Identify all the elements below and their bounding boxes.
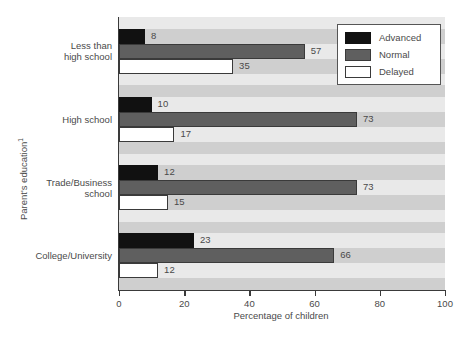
bar-group: 127315 — [119, 154, 445, 222]
y-axis-title-footnote: 1 — [17, 138, 24, 142]
bar-row: 73 — [119, 180, 445, 195]
category-label-line: high school — [0, 51, 112, 62]
bar-row: 12 — [119, 165, 445, 180]
bar-advanced[interactable] — [119, 29, 145, 44]
x-axis-tick — [315, 290, 316, 296]
bar-normal[interactable] — [119, 248, 334, 263]
category-label: Trade/Businessschool — [0, 177, 112, 199]
bar-row: 12 — [119, 263, 445, 278]
bar-value-label: 12 — [164, 264, 175, 275]
bar-row: 17 — [119, 127, 445, 142]
category-label: High school — [0, 114, 112, 125]
bar-value-label: 23 — [200, 234, 211, 245]
bar-value-label: 17 — [180, 128, 191, 139]
legend-label: Delayed — [379, 66, 414, 77]
legend-item[interactable]: Advanced — [345, 30, 434, 45]
x-axis-tick-label: 40 — [244, 298, 255, 309]
bar-value-label: 73 — [363, 181, 374, 192]
bar-delayed[interactable] — [119, 195, 168, 210]
bar-value-label: 10 — [158, 98, 169, 109]
bar-normal[interactable] — [119, 180, 357, 195]
bar-value-label: 66 — [340, 249, 351, 260]
x-axis-tick-label: 60 — [309, 298, 320, 309]
bar-value-label: 15 — [174, 196, 185, 207]
x-axis-tick-label: 20 — [179, 298, 190, 309]
legend-label: Normal — [379, 49, 410, 60]
x-axis-tick — [445, 290, 446, 296]
x-axis-tick-label: 80 — [375, 298, 386, 309]
x-axis-tick-label: 0 — [116, 298, 121, 309]
bar-delayed[interactable] — [119, 59, 233, 74]
category-label-line: school — [0, 188, 112, 199]
bar-value-label: 8 — [151, 30, 156, 41]
bar-advanced[interactable] — [119, 97, 152, 112]
bar-advanced[interactable] — [119, 165, 158, 180]
legend-swatch-normal — [345, 49, 371, 61]
bar-normal[interactable] — [119, 112, 357, 127]
bar-group: 236612 — [119, 222, 445, 290]
category-label-line: College/University — [0, 250, 112, 261]
category-label-line: Less than — [0, 40, 112, 51]
x-axis-tick — [249, 290, 250, 296]
bar-delayed[interactable] — [119, 263, 158, 278]
bar-advanced[interactable] — [119, 233, 194, 248]
legend-label: Advanced — [379, 32, 421, 43]
x-axis-tick — [119, 290, 120, 296]
chart-figure: Parent's education1 85735107317127315236… — [0, 0, 470, 340]
legend-swatch-advanced — [345, 32, 371, 44]
chart-legend: AdvancedNormalDelayed — [337, 24, 441, 85]
bar-row: 66 — [119, 248, 445, 263]
bar-row: 15 — [119, 195, 445, 210]
legend-swatch-delayed — [345, 66, 371, 78]
bar-value-label: 12 — [164, 166, 175, 177]
bar-row: 23 — [119, 233, 445, 248]
category-label-line: High school — [0, 114, 112, 125]
x-axis-tick — [184, 290, 185, 296]
bar-delayed[interactable] — [119, 127, 174, 142]
bar-value-label: 57 — [311, 45, 322, 56]
bar-normal[interactable] — [119, 44, 305, 59]
bar-row: 73 — [119, 112, 445, 127]
category-label-line: Trade/Business — [0, 177, 112, 188]
bar-row: 10 — [119, 97, 445, 112]
x-axis-title: Percentage of children — [118, 310, 444, 321]
bar-value-label: 73 — [363, 113, 374, 124]
x-axis-tick-label: 100 — [437, 298, 453, 309]
x-axis-tick — [380, 290, 381, 296]
legend-item[interactable]: Normal — [345, 47, 434, 62]
category-label: College/University — [0, 250, 112, 261]
bar-value-label: 35 — [239, 60, 250, 71]
bar-group: 107317 — [119, 85, 445, 153]
category-label: Less thanhigh school — [0, 40, 112, 62]
legend-item[interactable]: Delayed — [345, 64, 434, 79]
